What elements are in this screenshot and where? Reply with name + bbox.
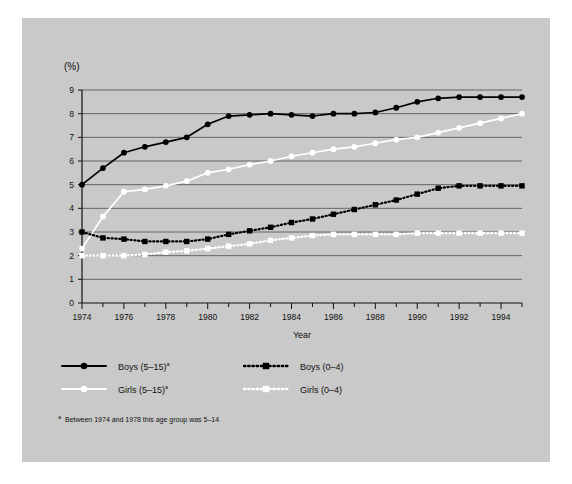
legend-marker [81,363,88,370]
data-point [477,183,482,188]
data-point [79,182,85,188]
data-point [372,140,378,146]
y-axis-tick-label: 2 [69,251,74,261]
data-point [456,183,461,188]
y-axis-tick-label: 0 [69,298,74,308]
data-point [310,216,315,221]
data-point [163,249,168,254]
data-point [205,121,211,127]
legend-item: Boys (5–15)a [62,361,171,372]
data-point [142,144,148,150]
data-point [163,139,169,145]
y-axis-tick-label: 3 [69,227,74,237]
data-point [310,233,315,238]
data-point [289,112,295,118]
data-point [100,214,106,220]
chart-canvas: 0123456789 19741976197819801982198419861… [22,18,550,462]
data-point [121,150,127,156]
data-point [247,228,252,233]
y-axis-tick-label: 4 [69,203,74,213]
x-axis-tick-labels: 1974197619781980198219841986198819901992… [73,312,511,322]
data-point [351,111,357,117]
data-point [519,183,524,188]
data-point [477,94,483,100]
y-axis-tick-labels: 0123456789 [69,85,74,308]
data-point [100,253,105,258]
data-point [519,94,525,100]
svg-text:a Between 1974 and 197: a Between 1974 and 1978 this age group w… [58,413,219,424]
data-point [100,235,105,240]
chart-legend: Boys (5–15)aBoys (0–4)Girls (5–15)aGirls… [62,361,344,395]
data-point [414,134,420,140]
data-point [184,248,189,253]
data-point [226,232,231,237]
data-point [414,99,420,105]
x-axis-tick-label: 1988 [366,312,385,322]
x-axis-tick-label: 1984 [282,312,301,322]
x-axis-tick-label: 1974 [73,312,92,322]
legend-label: Girls (5–15)a [118,384,169,395]
legend-label: Boys (5–15)a [118,361,171,372]
data-point [289,235,294,240]
y-axis-unit-label: (%) [64,61,80,72]
x-axis-title: Year [293,330,311,340]
data-point [100,165,106,171]
data-point [331,232,336,237]
data-point [226,244,231,249]
data-point [205,246,210,251]
x-axis-tick-label: 1986 [324,312,343,322]
y-axis-tick-label: 8 [69,109,74,119]
data-point [142,187,148,193]
data-point [435,130,441,136]
data-point [268,225,273,230]
data-point [456,94,462,100]
data-point [247,112,253,118]
data-point [226,113,232,119]
data-point [289,220,294,225]
data-point [121,236,126,241]
x-axis-ticks [82,303,522,309]
y-axis-tick-label: 5 [69,180,74,190]
data-point [163,183,169,189]
x-axis-tick-label: 1994 [492,312,511,322]
data-point [352,207,357,212]
y-axis-tick-label: 9 [69,85,74,95]
y-axis-tick-label: 1 [69,274,74,284]
data-point [456,230,461,235]
data-point [247,162,253,168]
data-point [268,238,273,243]
data-point [415,230,420,235]
data-point [435,186,440,191]
data-point [121,189,127,195]
data-point [331,212,336,217]
figure-panel: 0123456789 19741976197819801982198419861… [22,18,550,462]
data-point [373,232,378,237]
data-point [372,110,378,116]
data-point [289,153,295,159]
x-axis-tick-label: 1990 [408,312,427,322]
data-point [393,137,399,143]
data-point [226,166,232,172]
data-point [498,230,503,235]
data-point [519,111,525,117]
data-point [456,125,462,131]
data-point [205,170,211,176]
y-axis-tick-label: 6 [69,156,74,166]
y-axis-tick-label: 7 [69,132,74,142]
footnote-body: Between 1974 and 1978 this age group was… [65,416,219,424]
data-point [415,191,420,196]
legend-label: Girls (0–4) [300,385,342,395]
legend-item: Boys (0–4) [244,362,344,372]
data-point [393,105,399,111]
data-point [498,116,504,122]
plot-background [82,90,522,303]
legend-item: Girls (5–15)a [62,384,169,395]
legend-marker [81,386,88,393]
x-axis-tick-label: 1992 [450,312,469,322]
data-point [477,230,482,235]
data-point [498,94,504,100]
data-point [351,144,357,150]
data-point [79,229,84,234]
data-point [247,241,252,246]
data-point [352,232,357,237]
